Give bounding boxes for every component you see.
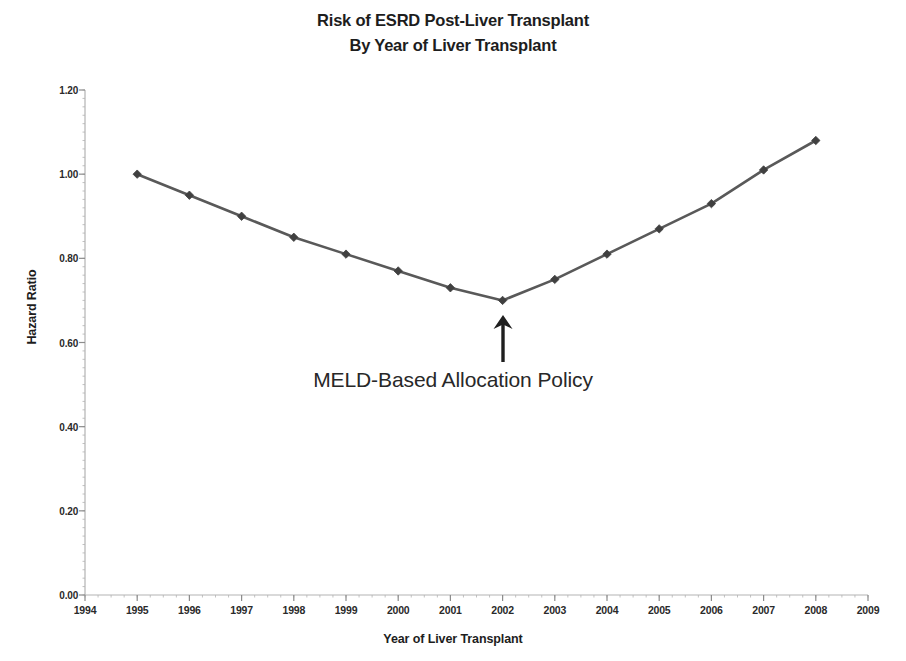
y-axis-tick-label: 0.20 <box>34 505 78 516</box>
x-axis-tick-label: 1999 <box>316 604 376 616</box>
x-axis-tick-label: 1996 <box>159 604 219 616</box>
data-point-marker <box>498 296 506 304</box>
data-point-marker <box>290 233 298 241</box>
data-point-marker <box>551 275 559 283</box>
y-axis-tick-label: 0.00 <box>34 590 78 601</box>
x-axis-tick-label: 2006 <box>681 604 741 616</box>
x-axis-tick-labels: 1994199519961997199819992000200120022003… <box>0 604 906 624</box>
x-axis-title: Year of Liver Transplant <box>0 632 906 646</box>
data-point-marker <box>603 250 611 258</box>
x-axis-tick-label: 2001 <box>420 604 480 616</box>
y-axis-tick-label: 0.80 <box>34 253 78 264</box>
x-axis-tick-label: 2008 <box>786 604 846 616</box>
chart-title-line-1: Risk of ESRD Post-Liver Transplant <box>0 8 906 33</box>
data-point-marker <box>237 212 245 220</box>
x-axis-tick-label: 2002 <box>473 604 533 616</box>
hazard-ratio-series <box>137 141 816 301</box>
data-point-marker <box>133 170 141 178</box>
y-axis-tick-label: 0.40 <box>34 421 78 432</box>
y-axis-tick-label: 1.00 <box>34 169 78 180</box>
chart-title: Risk of ESRD Post-Liver Transplant By Ye… <box>0 8 906 58</box>
x-axis-tick-label: 2003 <box>525 604 585 616</box>
x-axis-tick-label: 2007 <box>734 604 794 616</box>
line-chart-canvas <box>85 90 868 595</box>
y-axis-tick-label: 0.60 <box>34 337 78 348</box>
x-axis-tick-label: 2009 <box>838 604 898 616</box>
chart-title-line-2: By Year of Liver Transplant <box>0 33 906 58</box>
x-axis-tick-label: 1998 <box>264 604 324 616</box>
x-axis-tick-label: 2004 <box>577 604 637 616</box>
data-point-marker <box>394 267 402 275</box>
axis-lines <box>79 90 868 601</box>
x-axis-tick-label: 1994 <box>55 604 115 616</box>
x-axis-tick-label: 2000 <box>368 604 428 616</box>
y-axis-title: Hazard Ratio <box>25 227 39 387</box>
data-point-marker <box>655 225 663 233</box>
annotation-label: MELD-Based Allocation Policy <box>0 368 906 392</box>
chart-figure: Risk of ESRD Post-Liver Transplant By Ye… <box>0 0 906 661</box>
y-axis-tick-label: 1.20 <box>34 85 78 96</box>
data-point-marker <box>446 284 454 292</box>
data-point-marker <box>185 191 193 199</box>
plot-area <box>85 90 868 595</box>
x-axis-tick-label: 1995 <box>107 604 167 616</box>
up-arrow-icon <box>485 312 521 362</box>
data-point-marker <box>342 250 350 258</box>
x-axis-tick-label: 2005 <box>629 604 689 616</box>
x-axis-tick-label: 1997 <box>212 604 272 616</box>
data-point-markers <box>133 136 820 304</box>
